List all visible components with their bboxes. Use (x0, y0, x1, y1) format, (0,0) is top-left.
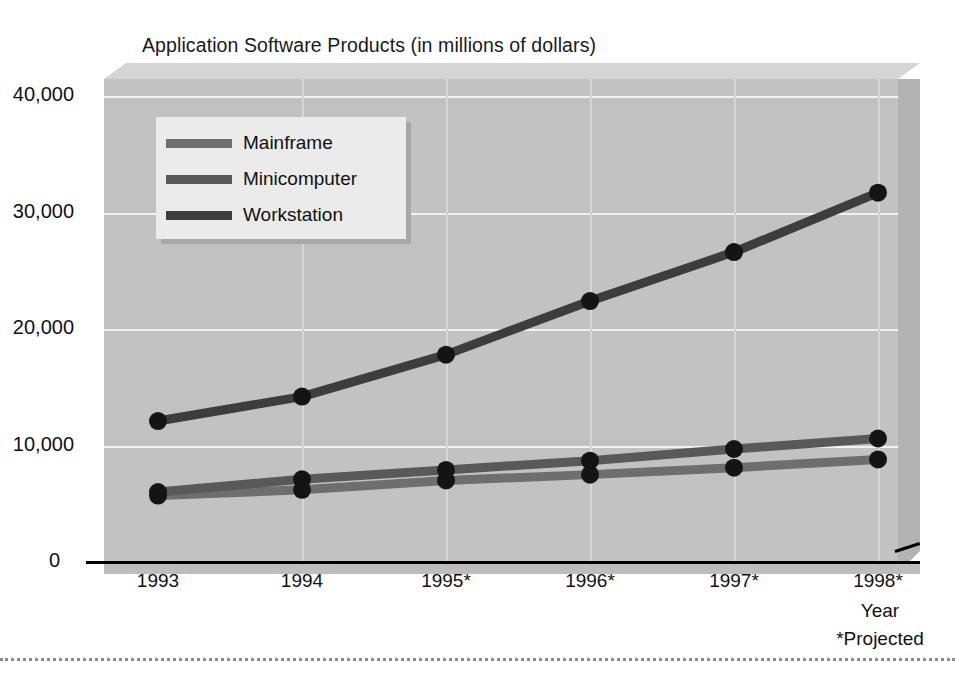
gridline-40000 (104, 96, 898, 98)
x-axis-tick-label-1993: 1993 (137, 570, 179, 592)
y-axis-tick-label-30000: 30,000 (13, 200, 74, 223)
legend-swatch-workstation (166, 211, 232, 220)
legend-label-workstation: Workstation (243, 204, 343, 226)
category-gridline-1995 (446, 79, 448, 562)
projected-footnote: *Projected (836, 628, 924, 650)
chart-title: Application Software Products (in millio… (142, 34, 596, 57)
page-bottom-rule (0, 658, 955, 661)
legend-swatch-minicomputer (166, 175, 232, 184)
category-gridline-1996 (590, 79, 592, 562)
y-axis-zero-tick (86, 561, 106, 564)
y-axis-labels: 010,00020,00030,00040,000 (0, 0, 86, 674)
category-gridline-1998 (878, 79, 880, 562)
legend-label-mainframe: Mainframe (243, 132, 333, 154)
legend: MainframeMinicomputerWorkstation (156, 117, 406, 239)
legend-item-mainframe[interactable]: Mainframe (166, 128, 400, 158)
plot-frame-top-bevel (104, 63, 920, 79)
x-axis-tick-label-1998: 1998* (853, 570, 903, 592)
x-axis-tick-label-1996: 1996* (565, 570, 615, 592)
y-axis-tick-label-0: 0 (49, 549, 60, 572)
x-axis-title: Year (861, 600, 899, 622)
legend-item-workstation[interactable]: Workstation (166, 200, 400, 230)
y-axis-tick-label-10000: 10,000 (13, 433, 74, 456)
legend-swatch-mainframe (166, 139, 232, 148)
x-axis-line (104, 561, 920, 564)
gridline-20000 (104, 329, 898, 331)
legend-item-minicomputer[interactable]: Minicomputer (166, 164, 400, 194)
x-axis-tick-label-1997: 1997* (709, 570, 759, 592)
gridline-10000 (104, 446, 898, 448)
x-axis-tick-label-1995: 1995* (421, 570, 471, 592)
plot-frame-right-bevel (898, 79, 920, 573)
legend-label-minicomputer: Minicomputer (243, 168, 357, 190)
x-axis-tick-label-1994: 1994 (281, 570, 323, 592)
category-gridline-1997 (734, 79, 736, 562)
y-axis-tick-label-40000: 40,000 (13, 83, 74, 106)
y-axis-tick-label-20000: 20,000 (13, 316, 74, 339)
